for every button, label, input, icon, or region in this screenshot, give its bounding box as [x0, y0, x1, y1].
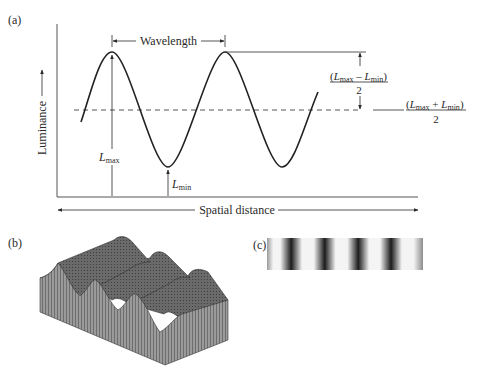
- panel-a-label: (a): [8, 13, 21, 27]
- panel-c-label: (c): [253, 238, 266, 252]
- figure-canvas: (a) Luminance Lmax Lmin Wavelength (Lmax…: [0, 0, 484, 380]
- mean-fraction: (Lmax + Lmin) 2: [406, 98, 466, 125]
- panel-b-label: (b): [8, 236, 22, 250]
- sinusoidal-grating: [267, 238, 423, 270]
- luminance-surface-3d: [40, 237, 228, 365]
- y-axis-label: Luminance: [35, 101, 49, 155]
- svg-text:2: 2: [356, 84, 362, 96]
- lmin-text: Lmin: [171, 177, 191, 192]
- svg-text:Luminance: Luminance: [35, 101, 49, 155]
- x-axis-label: Spatial distance: [199, 203, 275, 217]
- svg-text:2: 2: [433, 113, 439, 125]
- wavelength-label: Wavelength: [140, 34, 197, 48]
- amplitude-fraction: (Lmax – Lmin) 2: [330, 70, 388, 96]
